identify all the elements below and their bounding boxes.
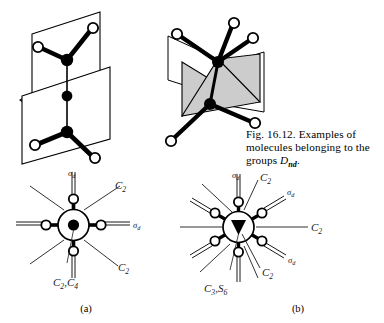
figure-16-12: σd C2 σd C2 C2,C4	[0, 0, 384, 323]
ligand-lower-left	[210, 236, 219, 245]
atom-carbon-middle	[62, 91, 73, 102]
label-c2-bottom-right: C2	[262, 266, 273, 281]
symmetry-projection-a: σd C2 σd C2 C2,C4	[12, 168, 172, 298]
atom-ligand-lower-left	[166, 136, 176, 146]
caption-point-group-symbol: Dnd	[280, 154, 297, 166]
label-principal-axis: C2,C4	[53, 276, 78, 291]
atom-hydrogen-upper-right	[88, 23, 98, 33]
atom-hydrogen-lower-right	[90, 153, 100, 163]
symmetry-projection-b: σd C2 σd C2 σd C2 C3,S6	[180, 168, 340, 308]
figure-caption: Fig. 16.12. Examples of molecules belong…	[246, 128, 382, 172]
ligand-top	[69, 194, 78, 203]
label-c2-top-right: C2	[260, 171, 271, 186]
ligand-left	[41, 220, 50, 229]
caption-period: .	[297, 154, 300, 166]
ligand-lower-right	[257, 236, 266, 245]
ligand-top	[234, 197, 243, 206]
atom-center-upper	[212, 56, 224, 68]
atom-ligand-upper-right	[248, 33, 258, 43]
label-c2-upper-right: C2	[115, 179, 126, 194]
atom-carbon-upper	[61, 54, 73, 66]
caption-line-3: groups Dnd.	[246, 154, 382, 171]
caption-line-2: molecules belonging to the	[246, 141, 382, 154]
atom-ligand-lower-right	[250, 118, 260, 128]
label-sigma-d-top: σd	[68, 168, 76, 179]
atom-ligand-upper-top	[229, 18, 239, 28]
label-c2-lower-right: C2	[118, 261, 129, 276]
caption-line-1: Fig. 16.12. Examples of	[246, 128, 382, 141]
label-sigma-d-top: σd	[232, 170, 240, 181]
label-sigma-d-right: σd	[133, 220, 141, 231]
molecule-diagram-staggered-with-planes	[10, 4, 135, 164]
atom-ligand-upper-far-left	[172, 29, 182, 39]
caption-groups-word: groups	[246, 154, 280, 166]
label-principal-axis: C3,S6	[204, 282, 227, 297]
subcaption-b: (b)	[278, 303, 318, 314]
atom-central	[68, 219, 79, 230]
ligand-upper-right	[257, 208, 266, 217]
caption-point-group-subscript: nd	[288, 161, 297, 170]
ligand-right	[96, 220, 105, 229]
atom-center-lower	[204, 98, 216, 110]
ligand-upper-left	[210, 208, 219, 217]
label-c2-right: C2	[311, 221, 322, 236]
subcaption-a: (a)	[66, 303, 106, 314]
label-sigma-d-upper-right: σd	[287, 187, 295, 198]
atom-carbon-lower	[61, 126, 73, 138]
label-sigma-d-lower-right: σd	[288, 255, 296, 266]
atom-hydrogen-upper-left	[33, 42, 43, 52]
atom-hydrogen-lower-left	[30, 140, 40, 150]
